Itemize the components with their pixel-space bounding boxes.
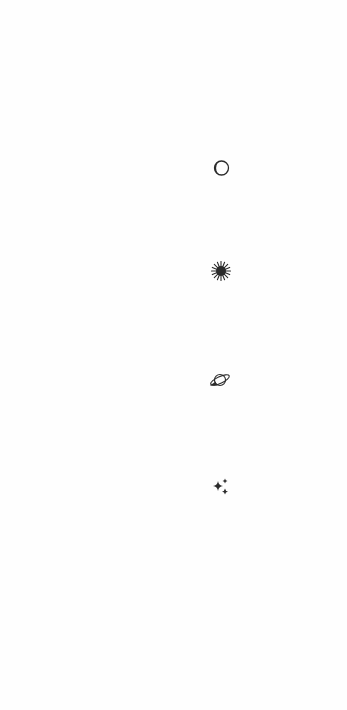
moon-phase-glyph (211, 158, 231, 178)
sun-icon[interactable] (209, 259, 233, 283)
crescent-moon-icon[interactable] (209, 582, 233, 606)
icon-menu-screen (0, 0, 347, 710)
crescent-moon-glyph (210, 583, 232, 605)
planet-glyph (208, 369, 232, 391)
moon-phase-icon[interactable] (209, 156, 233, 180)
sun-glyph (210, 260, 232, 282)
sparkles-glyph (210, 476, 232, 498)
planet-icon[interactable] (208, 368, 232, 392)
sparkles-icon[interactable] (209, 475, 233, 499)
